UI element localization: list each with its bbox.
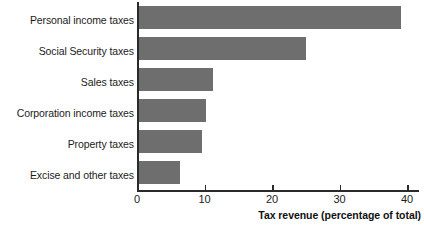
x-tick-label-20: 20 [259, 193, 285, 206]
category-label-social-security-taxes: Social Security taxes [0, 45, 134, 57]
x-tick-mark-30 [340, 185, 342, 191]
category-axis: Personal income taxes Social Security ta… [0, 0, 134, 190]
bar-social-security-taxes [138, 37, 306, 60]
plot-area [138, 0, 424, 190]
category-label-corporation-income-taxes: Corporation income taxes [0, 107, 134, 119]
y-axis-line [137, 2, 139, 191]
x-tick-label-10: 10 [192, 193, 218, 206]
x-tick-label-0: 0 [124, 193, 150, 206]
x-tick-mark-0 [137, 185, 139, 191]
bar-personal-income-taxes [138, 6, 401, 29]
x-axis-title: Tax revenue (percentage of total) [0, 209, 421, 221]
bar-sales-taxes [138, 68, 213, 91]
category-label-sales-taxes: Sales taxes [0, 76, 134, 88]
category-label-excise-and-other-taxes: Excise and other taxes [0, 169, 134, 181]
x-axis-line [137, 190, 419, 192]
x-tick-mark-20 [272, 185, 274, 191]
x-tick-label-30: 30 [327, 193, 353, 206]
x-tick-mark-40 [407, 185, 409, 191]
x-tick-label-40: 40 [394, 193, 420, 206]
bar-excise-and-other-taxes [138, 161, 180, 184]
bar-corporation-income-taxes [138, 99, 206, 122]
category-label-property-taxes: Property taxes [0, 138, 134, 150]
bar-property-taxes [138, 130, 202, 153]
category-label-personal-income-taxes: Personal income taxes [0, 14, 134, 26]
tax-revenue-bar-chart: Personal income taxes Social Security ta… [0, 0, 424, 228]
x-tick-mark-10 [205, 185, 207, 191]
